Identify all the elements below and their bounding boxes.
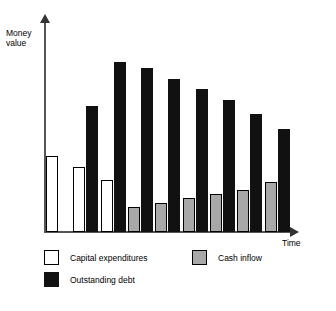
bar-group xyxy=(101,22,128,232)
legend-row-2: Outstanding debt xyxy=(44,272,324,294)
bar-group xyxy=(155,22,182,232)
legend-item-outstanding-debt: Outstanding debt xyxy=(44,272,135,287)
legend-item-cash-inflow: Cash inflow xyxy=(192,250,262,265)
bar-group xyxy=(183,22,210,232)
gray-square-swatch-icon xyxy=(192,250,207,265)
bar-outstanding-debt xyxy=(141,68,153,232)
bar-outstanding-debt xyxy=(86,106,98,232)
bar-capital-expenditures xyxy=(73,167,85,232)
bar-cash-inflow xyxy=(155,203,167,232)
x-axis-title: Time xyxy=(282,238,301,248)
bar-cash-inflow xyxy=(265,182,277,232)
bar-outstanding-debt xyxy=(223,100,235,232)
bar-group xyxy=(265,22,292,232)
legend-label-capital-expenditures: Capital expenditures xyxy=(70,253,148,263)
bar-capital-expenditures xyxy=(46,156,58,232)
plot-area xyxy=(46,22,292,232)
bar-group xyxy=(128,22,155,232)
bar-outstanding-debt xyxy=(278,129,290,232)
bar-group xyxy=(237,22,264,232)
black-square-swatch-icon xyxy=(44,272,59,287)
y-axis-title: Money value xyxy=(6,28,42,48)
bar-cash-inflow xyxy=(128,207,140,232)
bar-outstanding-debt xyxy=(196,89,208,232)
bar-group xyxy=(73,22,100,232)
chart-legend: Capital expenditures Cash inflow Outstan… xyxy=(44,250,324,294)
bar-cash-inflow xyxy=(183,198,195,232)
bar-cash-inflow xyxy=(237,190,249,232)
bar-capital-expenditures xyxy=(101,180,113,233)
bar-outstanding-debt xyxy=(114,62,126,232)
bar-cash-inflow xyxy=(210,194,222,232)
legend-label-cash-inflow: Cash inflow xyxy=(218,253,262,263)
bar-chart: Money value Time Capital expenditures Ca… xyxy=(0,0,336,311)
legend-row-1: Capital expenditures Cash inflow xyxy=(44,250,324,272)
bar-outstanding-debt xyxy=(250,114,262,232)
bar-outstanding-debt xyxy=(168,79,180,232)
bar-group xyxy=(46,22,73,232)
bar-group xyxy=(210,22,237,232)
legend-item-capital-expenditures: Capital expenditures xyxy=(44,250,148,265)
white-square-swatch-icon xyxy=(44,250,59,265)
legend-label-outstanding-debt: Outstanding debt xyxy=(70,275,135,285)
